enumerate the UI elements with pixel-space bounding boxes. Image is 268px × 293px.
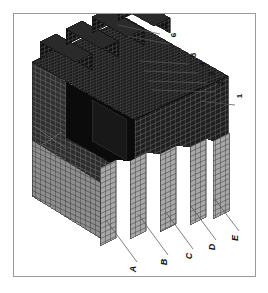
callout-label-E: E [231,235,239,241]
callout-label-C: C [185,253,193,260]
callout-label-6: 6 [170,33,178,37]
callout-label-B: B [160,259,168,266]
callout-label-3: 3 [208,72,216,76]
callout-label-A: A [129,266,137,273]
callout-label-7: 7 [161,23,169,27]
callout-label-5: 5 [190,53,198,57]
callout-label-1: 1 [236,94,244,98]
isometric-mesh-drawing [0,0,268,293]
callout-label-2: 2 [217,81,225,85]
callout-label-4: 4 [199,62,207,66]
callout-label-D: D [208,244,216,251]
figure-canvas: 7 6 5 4 3 2 1 A B C D E [0,0,268,293]
